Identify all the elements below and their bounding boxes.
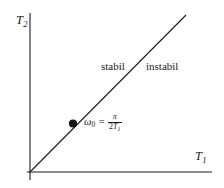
omega-zero-marker-dot bbox=[69, 119, 77, 127]
fraction-numerator: π bbox=[112, 113, 118, 122]
denominator-variable: T bbox=[113, 122, 117, 131]
omega-subscript: 0 bbox=[91, 120, 95, 129]
y-axis-label: T2 bbox=[16, 14, 27, 27]
fraction: π 2T1 bbox=[108, 113, 121, 131]
stability-diagram-figure: T2 T1 stabil instabil ω0 = π 2T1 bbox=[0, 0, 224, 188]
x-axis-label-subscript: 1 bbox=[202, 155, 206, 165]
denominator-subscript: 1 bbox=[118, 126, 121, 132]
omega-symbol: ω0 bbox=[84, 117, 95, 128]
fraction-denominator: 2T1 bbox=[108, 123, 121, 132]
y-axis-label-text: T bbox=[16, 13, 23, 27]
stability-boundary-line bbox=[30, 15, 186, 172]
x-axis-label-text: T bbox=[195, 149, 202, 163]
x-axis-label: T1 bbox=[195, 150, 206, 163]
region-label-instabil: instabil bbox=[146, 61, 178, 72]
equals-sign: = bbox=[99, 117, 105, 128]
region-label-stabil: stabil bbox=[101, 61, 125, 72]
plot-canvas bbox=[0, 0, 224, 188]
omega-zero-formula: ω0 = π 2T1 bbox=[84, 113, 122, 131]
y-axis-label-subscript: 2 bbox=[23, 19, 27, 29]
